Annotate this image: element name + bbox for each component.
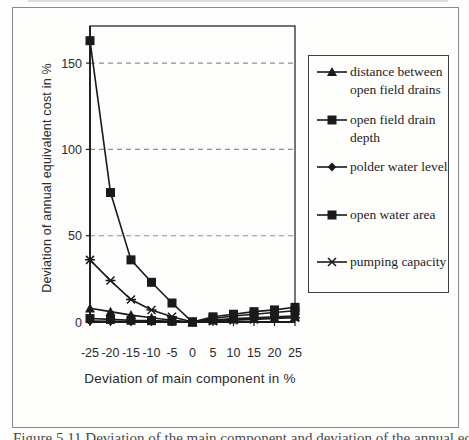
svg-text:0: 0 — [189, 346, 196, 360]
svg-text:20: 20 — [268, 346, 282, 360]
legend-xstar-marker-icon — [317, 253, 347, 271]
legend-item-open-water-area: open water area — [317, 206, 448, 254]
legend-item-pumping-capacity: pumping capacity — [317, 253, 448, 301]
legend-label: distance between open field drains — [350, 63, 448, 99]
y-axis-title: Deviation of annual equivalent cost in % — [40, 63, 54, 293]
legend-label: open field drain depth — [350, 111, 448, 147]
svg-text:25: 25 — [288, 346, 302, 360]
svg-text:100: 100 — [61, 143, 82, 157]
legend-label: polder water level — [350, 158, 448, 176]
series-open-field-drain-depth — [86, 36, 300, 326]
svg-text:0: 0 — [75, 316, 82, 330]
legend-label: open water area — [350, 206, 448, 224]
svg-text:5: 5 — [210, 346, 217, 360]
legend-square-marker-icon — [317, 111, 347, 129]
legend-item-polder-water-level: polder water level — [317, 158, 448, 206]
svg-text:150: 150 — [61, 57, 82, 71]
legend-item-distance-between-open-field-drains: distance between open field drains — [317, 63, 448, 111]
scanned-figure-page: -25-20-15-10-50510152025050100150 Deviat… — [0, 0, 469, 440]
svg-text:-10: -10 — [142, 346, 160, 360]
svg-text:50: 50 — [68, 229, 82, 243]
legend-triangle-marker-icon — [317, 63, 347, 81]
svg-text:-20: -20 — [101, 346, 119, 360]
svg-text:10: 10 — [227, 346, 241, 360]
chart-legend: distance between open field drains open … — [308, 55, 449, 293]
x-axis-title: Deviation of main component in % — [84, 371, 295, 386]
legend-diamond-marker-icon — [317, 158, 347, 176]
legend-square-marker-icon — [317, 206, 347, 224]
series-pumping-capacity — [85, 256, 300, 326]
figure-caption-clipped: Figure 5.11 Deviation of the main compon… — [13, 430, 469, 440]
legend-item-open-field-drain-depth: open field drain depth — [317, 111, 448, 159]
legend-label: pumping capacity — [350, 253, 448, 271]
svg-text:-25: -25 — [81, 346, 99, 360]
svg-text:-15: -15 — [122, 346, 140, 360]
svg-text:15: 15 — [247, 346, 261, 360]
svg-text:-5: -5 — [166, 346, 177, 360]
